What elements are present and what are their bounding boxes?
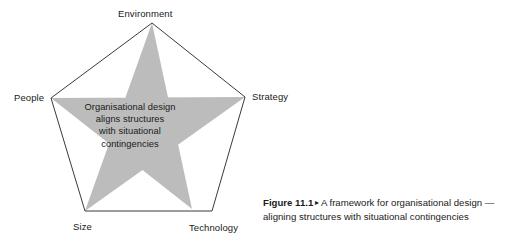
star-center-text: Organisational design aligns structures … <box>68 101 192 150</box>
center-text-line-3: with situational <box>68 125 192 137</box>
vertex-label-technology: Technology <box>189 222 238 233</box>
caption-separator-icon: ▸ <box>313 198 321 207</box>
vertex-label-people: People <box>14 92 44 103</box>
figure-caption-number: Figure 11.1 <box>263 197 313 208</box>
vertex-label-size: Size <box>73 221 92 232</box>
center-text-line-4: contingencies <box>68 138 192 150</box>
center-text-line-2: aligns structures <box>68 113 192 125</box>
vertex-label-environment: Environment <box>118 8 172 19</box>
vertex-label-strategy: Strategy <box>252 91 288 102</box>
center-text-line-1: Organisational design <box>68 101 192 113</box>
figure-caption: Figure 11.1▸A framework for organisation… <box>263 196 515 223</box>
